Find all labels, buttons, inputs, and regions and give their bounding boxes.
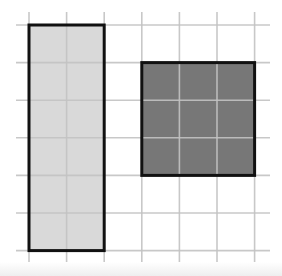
dark-square-fill — [142, 63, 255, 176]
grid-diagram — [0, 0, 282, 276]
bottom-fade — [0, 262, 282, 276]
grid-canvas — [0, 0, 282, 276]
